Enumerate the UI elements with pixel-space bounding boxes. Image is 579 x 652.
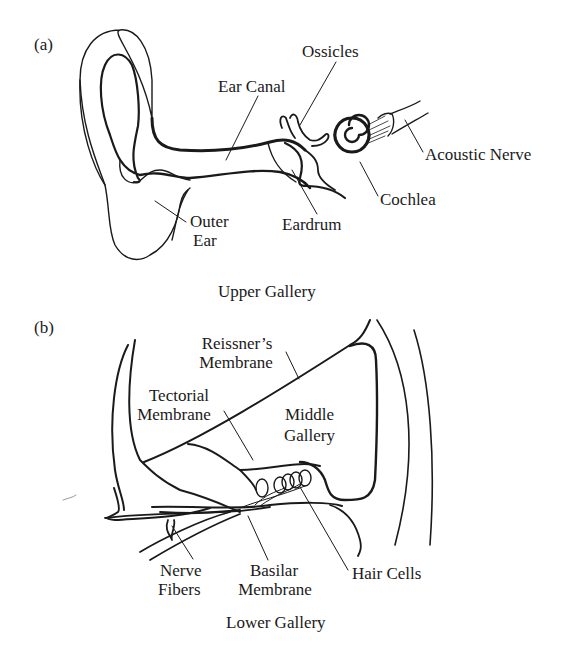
caption-upper-gallery: Upper Gallery <box>218 282 316 301</box>
label-hair-cells: Hair Cells <box>352 564 421 583</box>
caption-lower-gallery: Lower Gallery <box>226 613 326 632</box>
panel-a-tag: (a) <box>34 35 53 54</box>
label-outer-ear-line1: Outer <box>190 212 229 231</box>
label-tectorial-line2: Membrane <box>128 405 220 424</box>
label-ear-canal: Ear Canal <box>218 77 286 96</box>
label-nerve-fibers-line1: Nerve <box>160 561 202 580</box>
label-basilar-line2: Membrane <box>230 580 320 599</box>
label-eardrum: Eardrum <box>282 215 341 234</box>
panel-b-tag: (b) <box>34 318 54 337</box>
stray-mark <box>63 495 76 500</box>
label-middle-gallery-line2: Gallery <box>284 426 335 445</box>
label-outer-ear-line2: Ear <box>193 231 217 250</box>
label-middle-gallery-line1: Middle <box>285 405 334 424</box>
cochlea-drawing <box>335 101 428 152</box>
label-tectorial-line1: Tectorial <box>138 386 220 405</box>
middle-ear-drawing <box>268 115 345 198</box>
label-ossicles: Ossicles <box>302 42 359 61</box>
label-acoustic-nerve: Acoustic Nerve <box>425 145 531 164</box>
label-nerve-fibers-line2: Fibers <box>158 580 201 599</box>
outer-ear-drawing <box>80 30 190 260</box>
ear-canal-drawing <box>140 118 310 188</box>
leader-lines-b <box>172 352 348 570</box>
label-cochlea: Cochlea <box>380 190 436 209</box>
label-basilar-line1: Basilar <box>236 561 312 580</box>
label-reissners-line1: Reissner’s <box>192 334 282 353</box>
label-reissners-line2: Membrane <box>188 353 284 372</box>
